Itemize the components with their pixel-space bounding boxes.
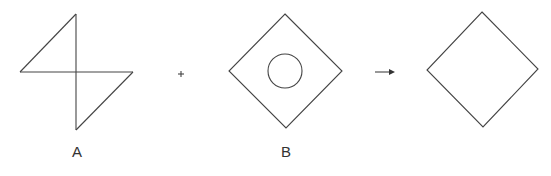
arrow-operator: [375, 69, 395, 75]
figure-b-circle: [268, 54, 302, 88]
arrow-icon-head: [389, 69, 395, 75]
figure-a-upper-diagonal: [20, 14, 76, 72]
figure-result-diamond: [427, 12, 538, 127]
figure-a-label: A: [72, 143, 82, 160]
figure-a: A: [20, 14, 133, 160]
plus-operator: [178, 71, 184, 77]
figure-a-lower-diagonal: [76, 72, 133, 130]
figure-b: B: [229, 14, 342, 160]
figure-b-label: B: [281, 143, 291, 160]
figure-result: [427, 12, 538, 127]
figure-b-diamond: [229, 14, 342, 128]
diagram-canvas: A B: [0, 0, 551, 176]
